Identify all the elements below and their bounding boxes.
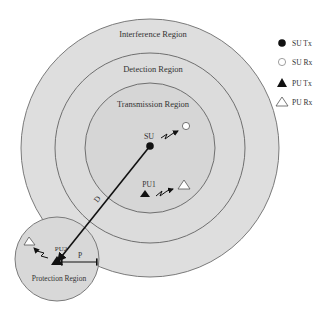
protection-region-label: Protection Region — [32, 274, 87, 283]
interference-region-label: Interference Region — [119, 29, 187, 39]
cognitive-radio-diagram: Interference Region Detection Region Tra… — [0, 0, 330, 317]
su-rx-icon — [182, 122, 189, 129]
legend-su-tx-icon — [278, 39, 286, 47]
su-label: SU — [144, 132, 154, 141]
legend-pu-rx-label: PU Rx — [292, 98, 312, 107]
legend-su-rx-icon — [278, 58, 285, 65]
pu1-label: PU1 — [142, 180, 156, 189]
legend-su-rx-label: SU Rx — [292, 58, 312, 67]
legend-su-tx-label: SU Tx — [292, 39, 312, 48]
legend-pu-tx-label: PU Tx — [292, 79, 312, 88]
pu2-label: PU2 — [55, 245, 68, 253]
distance-p-label: P — [78, 251, 82, 260]
transmission-region-label: Transmission Region — [117, 99, 190, 109]
su-tx-icon — [146, 142, 154, 150]
legend-pu-tx-icon — [277, 78, 287, 87]
legend: SU Tx SU Rx PU Tx PU Rx — [276, 39, 312, 107]
legend-pu-rx-icon — [276, 97, 288, 106]
detection-region-label: Detection Region — [123, 64, 183, 74]
